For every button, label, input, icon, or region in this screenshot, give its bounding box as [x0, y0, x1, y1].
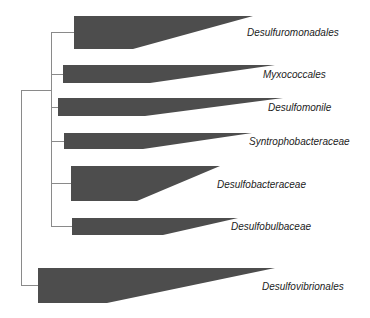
wedge-desulfobacteraceae — [71, 166, 220, 201]
clade-label-desulfomonile: Desulfomonile — [268, 102, 331, 114]
wedge-desulfobulbaceae — [72, 218, 238, 235]
clade-label-desulfuromonadales: Desulfuromonadales — [247, 27, 339, 39]
wedge-desulfomonile — [58, 98, 283, 116]
wedge-desulfovibrionales — [38, 268, 275, 303]
phylogenetic-tree — [0, 0, 370, 318]
clade-label-myxococcales: Myxococcales — [263, 69, 326, 81]
clade-label-desulfobacteraceae: Desulfobacteraceae — [217, 179, 306, 191]
clade-label-syntrophobacteraceae: Syntrophobacteraceae — [249, 136, 350, 148]
wedge-desulfuromonadales — [74, 16, 253, 49]
wedge-myxococcales — [63, 65, 275, 83]
clade-label-desulfovibrionales: Desulfovibrionales — [262, 281, 344, 293]
clade-label-desulfobulbaceae: Desulfobulbaceae — [231, 221, 311, 233]
wedge-syntrophobacteraceae — [64, 133, 252, 149]
